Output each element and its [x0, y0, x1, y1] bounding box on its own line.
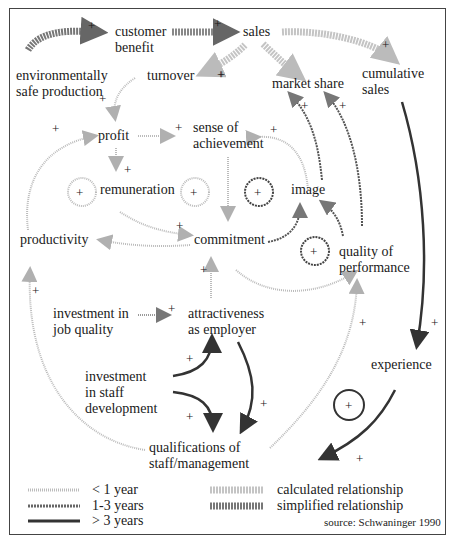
node-turnover: turnover [147, 68, 194, 84]
polarity-sign: + [339, 99, 346, 112]
arrow-turnover-to-profit [114, 78, 135, 118]
polarity-sign: + [301, 99, 308, 112]
polarity-sign: + [431, 316, 438, 329]
node-remuneration: remuneration [100, 182, 175, 198]
node-attractiveness-as-employer: attractiveness as employer [188, 306, 264, 338]
loop-sign: + [190, 186, 197, 199]
polarity-sign: + [88, 19, 95, 32]
node-productivity: productivity [20, 232, 88, 248]
node-customer-benefit: customer benefit [115, 24, 166, 56]
arrow-qualifications-to-quality [270, 282, 357, 448]
polarity-sign: + [200, 263, 207, 276]
node-investment-in-job-quality: investment in job quality [53, 306, 129, 338]
polarity-sign: + [270, 123, 277, 136]
arrow-quality-to-market-share [326, 94, 362, 226]
node-cumulative-sales: cumulative sales [362, 66, 424, 98]
node-profit: profit [98, 128, 129, 144]
legend-label-gt3-years: > 3 years [92, 513, 143, 529]
source-citation: source: Schwaninger 1990 [324, 516, 441, 528]
polarity-sign: + [186, 410, 193, 423]
arrow-qualifications-to-productivity [30, 270, 145, 450]
loop-sign: + [254, 186, 261, 199]
polarity-sign: + [176, 219, 183, 232]
node-qualifications-of-staff-management: qualifications of staff/management [149, 440, 249, 472]
arrow-env-to-customer-benefit [28, 31, 98, 50]
arrow-cumulative-sales-to-experience [402, 102, 424, 345]
node-commitment: commitment [194, 232, 265, 248]
arrow-sales-to-cumulative-sales [282, 32, 392, 58]
loop-sign: + [76, 186, 83, 199]
arrow-sales-to-market-share [263, 44, 298, 75]
arrow-commitment-to-productivity [100, 240, 190, 246]
arrow-productivity-to-profit [27, 136, 95, 230]
arrow-attractiveness-to-qualifications [238, 342, 253, 430]
arrow-quality-to-image [322, 202, 343, 236]
node-sense-of-achievement: sense of achievement [193, 120, 264, 152]
legend-label-1-3-years: 1-3 years [92, 498, 144, 514]
polarity-sign: + [356, 452, 363, 465]
polarity-sign: + [214, 17, 221, 30]
polarity-sign: + [382, 38, 389, 51]
node-sales: sales [243, 24, 270, 40]
polarity-sign: + [260, 397, 267, 410]
polarity-sign: + [186, 352, 193, 365]
node-investment-in-staff-development: investment in staff development [85, 369, 157, 417]
polarity-sign: + [52, 122, 59, 135]
polarity-sign: + [32, 284, 39, 297]
polarity-sign: + [359, 316, 366, 329]
arrow-experience-to-qualifications [322, 390, 395, 458]
polarity-sign: + [168, 302, 175, 315]
loop-sign: + [310, 245, 317, 258]
arrow-commitment-to-image [268, 206, 300, 242]
polarity-sign: + [124, 163, 131, 176]
legend-label-lt1-year: < 1 year [92, 482, 138, 498]
legend-label-simplified: simplified relationship [277, 498, 403, 514]
polarity-sign: + [175, 121, 182, 134]
polarity-sign: + [99, 92, 106, 105]
legend-label-calculated: calculated relationship [277, 482, 403, 498]
polarity-sign: + [218, 68, 225, 81]
node-quality-of-performance: quality of performance [339, 244, 410, 276]
node-image: image [291, 182, 325, 198]
node-experience: experience [371, 357, 432, 373]
node-market-share: market share [272, 76, 344, 92]
arrow-commitment-to-quality [236, 270, 355, 291]
loop-sign: + [345, 399, 352, 412]
node-environmentally-safe-production: environmentally safe production [16, 68, 108, 100]
